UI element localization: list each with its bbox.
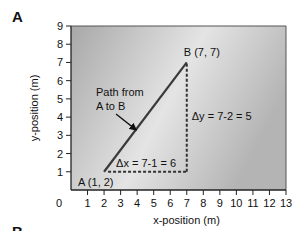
y-tick-label: 3 bbox=[57, 129, 63, 141]
origin-label: 0 bbox=[56, 197, 62, 209]
plot-area: 123456789101112131234567890x-position (m… bbox=[28, 20, 292, 226]
y-tick-label: 6 bbox=[57, 75, 63, 87]
delta-x-label: Δx = 7-1 = 6 bbox=[116, 157, 176, 169]
y-tick-label: 8 bbox=[57, 38, 63, 50]
x-tick-label: 7 bbox=[184, 197, 190, 209]
point-b-label: B (7, 7) bbox=[184, 46, 220, 58]
x-tick-label: 1 bbox=[84, 197, 90, 209]
path-annotation-line2: A to B bbox=[96, 100, 125, 112]
chart-svg: 123456789101112131234567890x-position (m… bbox=[0, 0, 304, 231]
x-tick-label: 6 bbox=[167, 197, 173, 209]
path-annotation-line1: Path from bbox=[96, 86, 144, 98]
y-tick-label: 9 bbox=[57, 20, 63, 32]
y-tick-label: 4 bbox=[57, 111, 63, 123]
delta-y-label: Δy = 7-2 = 5 bbox=[192, 110, 252, 122]
y-tick-label: 7 bbox=[57, 56, 63, 68]
x-tick-label: 13 bbox=[280, 197, 292, 209]
x-tick-label: 11 bbox=[247, 197, 258, 209]
point-a-label: A (1, 2) bbox=[78, 176, 113, 188]
x-tick-label: 2 bbox=[101, 197, 107, 209]
x-tick-label: 10 bbox=[230, 197, 242, 209]
x-axis-title: x-position (m) bbox=[153, 214, 220, 226]
x-tick-label: 9 bbox=[217, 197, 223, 209]
x-tick-label: 3 bbox=[118, 197, 124, 209]
x-tick-label: 8 bbox=[200, 197, 206, 209]
y-axis-title: y-position (m) bbox=[28, 75, 40, 142]
y-tick-label: 2 bbox=[57, 148, 63, 160]
y-tick-label: 5 bbox=[57, 93, 63, 105]
x-tick-label: 5 bbox=[151, 197, 157, 209]
panel-label-b: B bbox=[12, 223, 23, 231]
x-tick-label: 4 bbox=[134, 197, 140, 209]
y-tick-label: 1 bbox=[57, 166, 63, 178]
x-tick-label: 12 bbox=[263, 197, 275, 209]
